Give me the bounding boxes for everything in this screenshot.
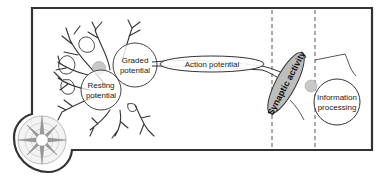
action-potential-callout: Action potential xyxy=(160,56,264,72)
neuron-diagram: Resting potential Graded potential Actio… xyxy=(0,0,378,178)
graded-potential-label-line2: potential xyxy=(120,66,150,75)
postsynaptic-nucleus xyxy=(305,80,317,92)
resting-potential-label-line1: Resting xyxy=(87,81,114,90)
resting-potential-callout: Resting potential xyxy=(81,70,121,110)
graded-potential-callout: Graded potential xyxy=(113,43,157,87)
compass-rose-icon xyxy=(18,116,66,164)
synaptic-activity-callout: Synaptic activity xyxy=(260,47,311,119)
information-processing-label-line2: processing xyxy=(318,103,357,112)
action-potential-label: Action potential xyxy=(185,60,240,69)
information-processing-callout: Information processing xyxy=(314,79,360,125)
information-processing-label-line1: Information xyxy=(317,93,357,102)
graded-potential-label-line1: Graded xyxy=(122,56,149,65)
resting-potential-label-line2: potential xyxy=(86,91,116,100)
